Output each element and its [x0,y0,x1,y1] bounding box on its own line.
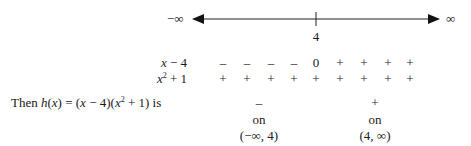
row-label-x2-plus-1: x2 + 1 [157,71,187,87]
sign-cell: 0 [313,55,320,71]
right-arrow-icon [428,14,440,24]
interval-range: (−∞, 4) [240,128,278,144]
sign-cell: + [360,71,367,87]
pos-infinity-label: ∞ [446,11,455,27]
left-arrow-icon [192,14,204,24]
sign-cell: + [384,55,391,71]
interval-sign: – [256,95,263,111]
sign-cell: + [267,71,274,87]
neg-infinity-label: −∞ [167,11,184,27]
sign-cell: + [290,71,297,87]
sign-cell: – [244,55,251,71]
sign-cell: + [406,55,413,71]
sign-cell: + [384,71,391,87]
sign-cell: + [219,71,226,87]
sign-cell: – [268,55,275,71]
sign-cell: + [243,71,250,87]
interval-word: on [369,112,382,128]
number-line [0,0,471,146]
tick-label-4: 4 [313,29,320,45]
sign-cell: + [336,55,343,71]
sign-cell: + [312,71,319,87]
sign-cell: + [406,71,413,87]
row-label-x-minus-4: x − 4 [161,55,187,71]
sign-cell: + [360,55,367,71]
sign-cell: – [291,55,298,71]
interval-range: (4, ∞) [360,128,391,144]
conclusion-text: Then h(x) = (x − 4)(x2 + 1) is [11,95,161,111]
sign-cell: – [220,55,227,71]
interval-sign: + [371,95,378,111]
interval-word: on [253,112,266,128]
sign-cell: + [336,71,343,87]
